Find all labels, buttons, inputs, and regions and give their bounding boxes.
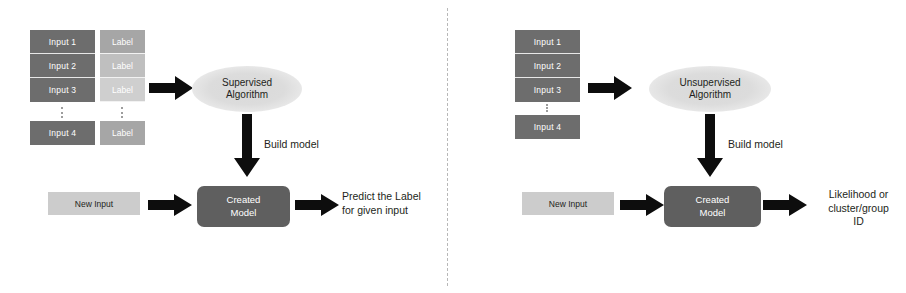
label-box-4: Label [100, 121, 145, 145]
label-column-ellipsis-icon [119, 107, 125, 118]
unsupervised-output-text: Likelihood or cluster/group ID [811, 188, 906, 229]
build-model-label: Build model [728, 138, 783, 152]
input-box-3: Input 3 [30, 78, 95, 102]
label-box-text: Label [112, 128, 133, 138]
input-box-label: Input 1 [534, 37, 561, 47]
input-box-2: Input 2 [515, 54, 580, 78]
arrow-build-model [233, 114, 261, 177]
arrow-new-input-to-model [620, 194, 664, 216]
input-box-label: Input 2 [534, 61, 561, 71]
algorithm-label: Supervised Algorithm [222, 77, 272, 102]
label-box-2: Label [100, 54, 145, 78]
input-box-4: Input 4 [515, 115, 580, 139]
label-box-1: Label [100, 30, 145, 54]
algorithm-label: Unsupervised Algorithm [679, 77, 740, 102]
label-box-3: Label [100, 78, 145, 102]
input-box-1: Input 1 [30, 30, 95, 54]
new-input-label: New Input [75, 199, 113, 209]
input-box-2: Input 2 [30, 54, 95, 78]
diagram-canvas: Input 1 Input 2 Input 3 Input 4 Label La… [0, 0, 906, 293]
arrow-new-input-to-model [148, 194, 192, 216]
label-box-text: Label [112, 85, 133, 95]
input-box-label: Input 4 [49, 128, 76, 138]
created-model-box: Created Model [664, 186, 761, 227]
label-box-text: Label [112, 37, 133, 47]
created-model-label: Created Model [696, 194, 730, 219]
new-input-label: New Input [549, 199, 587, 209]
input-column-ellipsis-icon [59, 107, 65, 118]
input-box-3: Input 3 [515, 78, 580, 102]
created-model-label: Created Model [227, 194, 261, 219]
input-box-label: Input 1 [49, 37, 76, 47]
label-box-text: Label [112, 61, 133, 71]
input-column-ellipsis-icon [544, 104, 550, 112]
arrow-build-model [696, 114, 724, 177]
input-box-label: Input 3 [49, 85, 76, 95]
input-box-label: Input 3 [534, 85, 561, 95]
arrow-model-to-output [763, 194, 807, 216]
arrow-model-to-output [295, 194, 339, 216]
supervised-panel: Input 1 Input 2 Input 3 Input 4 Label La… [0, 0, 447, 293]
created-model-box: Created Model [197, 186, 290, 227]
unsupervised-panel: Input 1 Input 2 Input 3 Input 4 Unsuperv… [447, 0, 906, 293]
supervised-output-text: Predict the Label for given input [342, 190, 447, 217]
input-box-label: Input 4 [534, 122, 561, 132]
build-model-label: Build model [264, 138, 319, 152]
input-box-1: Input 1 [515, 30, 580, 54]
input-box-label: Input 2 [49, 61, 76, 71]
new-input-box: New Input [48, 192, 140, 215]
new-input-box: New Input [522, 192, 614, 215]
supervised-algorithm-ellipse: Supervised Algorithm [192, 66, 302, 112]
input-box-4: Input 4 [30, 121, 95, 145]
arrow-inputs-to-algorithm [588, 76, 632, 100]
unsupervised-algorithm-ellipse: Unsupervised Algorithm [649, 66, 771, 112]
arrow-inputs-to-algorithm [149, 76, 193, 100]
